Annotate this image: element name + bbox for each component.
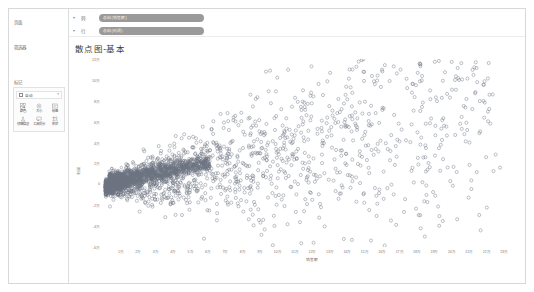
y-axis: 12万10万8万6万4万2万0-2万-4万-6万 bbox=[79, 59, 101, 247]
x-axis-tick: 4万 bbox=[170, 249, 175, 254]
x-axis-tick: 15万 bbox=[361, 249, 368, 254]
x-axis-tick: 13万 bbox=[326, 249, 333, 254]
worksheet-window: 页面 筛选器 标记 自动 ▾ bbox=[8, 8, 526, 284]
x-axis-tick: 8万 bbox=[240, 249, 245, 254]
mark-type-icon bbox=[19, 93, 23, 97]
rows-shelf[interactable]: ▾ 行 总和(利润) bbox=[73, 25, 521, 36]
x-axis-tick: 9万 bbox=[257, 249, 262, 254]
columns-pill-label: 总和(销售额) bbox=[103, 15, 127, 20]
x-axis-tick: 17万 bbox=[396, 249, 403, 254]
rows-pill-label: 总和(利润) bbox=[103, 28, 123, 33]
mark-type-select[interactable]: 自动 ▾ bbox=[16, 91, 62, 99]
marks-label-button[interactable]: 标签 bbox=[47, 102, 62, 113]
marks-card-label: 标记 bbox=[14, 79, 22, 85]
marks-card: 自动 ▾ 颜色 bbox=[13, 87, 65, 132]
worksheet-main: ▾ 列 总和(销售额) ▾ 行 总和(利润) 散点图-基本 bbox=[69, 9, 525, 283]
chevron-down-icon: ▾ bbox=[57, 93, 59, 96]
marks-detail-button[interactable]: 详细信息 bbox=[16, 115, 31, 126]
y-axis-tick: -6万 bbox=[93, 245, 100, 250]
x-axis-tick: 11万 bbox=[291, 249, 298, 254]
scatter-plot[interactable] bbox=[103, 59, 521, 247]
marks-label-label: 标签 bbox=[52, 110, 58, 113]
x-axis-tick: 12万 bbox=[309, 249, 316, 254]
x-axis-tick: 23万 bbox=[500, 249, 507, 254]
marks-button-grid: 颜色 大小 bbox=[16, 102, 62, 127]
x-axis-tick: 18万 bbox=[413, 249, 420, 254]
columns-shelf-label: 列 bbox=[81, 15, 95, 21]
chart-title: 散点图-基本 bbox=[75, 42, 125, 54]
x-axis-tick: 3万 bbox=[153, 249, 158, 254]
y-axis-tick: 2万 bbox=[94, 161, 100, 166]
x-axis-tick: 10万 bbox=[274, 249, 281, 254]
marks-tooltip-button[interactable]: 工具提示 bbox=[32, 115, 47, 126]
x-axis: 销售额 1万2万3万4万5万6万7万8万9万10万11万12万13万14万15万… bbox=[103, 249, 521, 259]
y-axis-tick: 10万 bbox=[92, 77, 100, 82]
marks-detail-label: 详细信息 bbox=[17, 123, 29, 126]
worksheet-sidebar: 页面 筛选器 标记 自动 ▾ bbox=[9, 9, 69, 283]
marks-shape-label: 形状 bbox=[52, 123, 58, 126]
rows-pill[interactable]: 总和(利润) bbox=[99, 27, 204, 35]
marks-color-button[interactable]: 颜色 bbox=[16, 102, 31, 113]
rows-caret-icon[interactable]: ▾ bbox=[73, 29, 77, 33]
shelf-area: ▾ 列 总和(销售额) ▾ 行 总和(利润) bbox=[69, 9, 525, 37]
x-axis-tick: 14万 bbox=[343, 249, 350, 254]
y-axis-tick: -2万 bbox=[93, 203, 100, 208]
x-axis-tick: 20万 bbox=[448, 249, 455, 254]
pages-shelf-label: 页面 bbox=[14, 19, 22, 25]
x-axis-tick: 2万 bbox=[135, 249, 140, 254]
columns-pill[interactable]: 总和(销售额) bbox=[99, 14, 204, 22]
x-axis-tick: 6万 bbox=[205, 249, 210, 254]
rows-shelf-label: 行 bbox=[81, 28, 95, 34]
columns-caret-icon[interactable]: ▾ bbox=[73, 16, 77, 20]
x-axis-tick: 5万 bbox=[188, 249, 193, 254]
columns-shelf[interactable]: ▾ 列 总和(销售额) bbox=[73, 12, 521, 23]
x-axis-tick: 1万 bbox=[118, 249, 123, 254]
y-axis-tick: 6万 bbox=[94, 119, 100, 124]
marks-color-label: 颜色 bbox=[20, 110, 26, 113]
y-axis-tick: 12万 bbox=[92, 57, 100, 62]
x-axis-tick: 21万 bbox=[465, 249, 472, 254]
x-axis-tick: 16万 bbox=[378, 249, 385, 254]
app-root: 页面 筛选器 标记 自动 ▾ bbox=[0, 0, 534, 292]
plot-container: 利润 12万10万8万6万4万2万0-2万-4万-6万 销售额 1万2万3万4万… bbox=[69, 59, 521, 283]
marks-tooltip-label: 工具提示 bbox=[33, 123, 45, 126]
x-axis-tick: 7万 bbox=[222, 249, 227, 254]
visualization-area: 散点图-基本 利润 12万10万8万6万4万2万0-2万-4万-6万 销售额 1… bbox=[69, 37, 525, 283]
marks-shape-button[interactable]: 形状 bbox=[47, 115, 62, 126]
x-axis-tick: 19万 bbox=[430, 249, 437, 254]
y-axis-tick: 4万 bbox=[94, 140, 100, 145]
x-axis-tick: 22万 bbox=[483, 249, 490, 254]
filters-shelf-label: 筛选器 bbox=[14, 44, 27, 50]
x-axis-title: 销售额 bbox=[306, 257, 318, 262]
y-axis-tick: 0 bbox=[98, 182, 100, 186]
y-axis-tick: -4万 bbox=[93, 224, 100, 229]
marks-size-button[interactable]: 大小 bbox=[32, 102, 47, 113]
y-axis-tick: 8万 bbox=[94, 98, 100, 103]
mark-type-value: 自动 bbox=[25, 93, 56, 98]
scatter-canvas[interactable] bbox=[103, 59, 521, 247]
marks-size-label: 大小 bbox=[36, 110, 42, 113]
